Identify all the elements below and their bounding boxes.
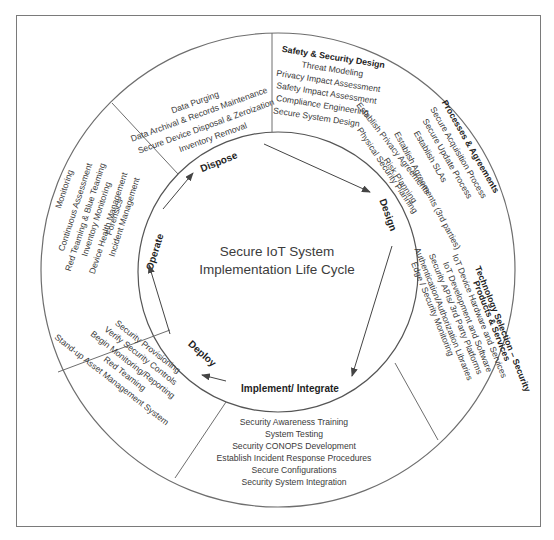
diagram-title-line1: Secure IoT System xyxy=(220,244,335,259)
life-cycle-diagram: Data Purging Data Archival & Records Mai… xyxy=(0,0,554,540)
implement-item: Security Awareness Training xyxy=(240,417,348,427)
implement-item: Establish Incident Response Procedures xyxy=(217,453,372,463)
implement-item: Secure Configurations xyxy=(251,465,336,475)
implement-item: Security System Integration xyxy=(241,477,346,487)
implement-item: Security CONOPS Development xyxy=(232,441,356,451)
phase-label-implement: Implement/ Integrate xyxy=(241,383,339,394)
diagram-title-line2: Implementation Life Cycle xyxy=(199,262,354,277)
implement-item: System Testing xyxy=(265,429,323,439)
